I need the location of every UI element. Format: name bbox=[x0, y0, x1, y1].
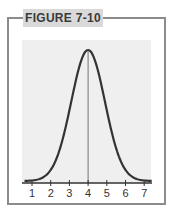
x-tick-label: 1 bbox=[29, 187, 35, 199]
plot-background bbox=[22, 40, 151, 183]
x-tick-label: 2 bbox=[48, 187, 54, 199]
x-tick-label: 3 bbox=[66, 187, 72, 199]
normal-curve-chart: 1234567 bbox=[0, 0, 173, 216]
x-tick-label: 4 bbox=[85, 187, 91, 199]
x-tick-label: 5 bbox=[104, 187, 110, 199]
x-axis: 1234567 bbox=[22, 180, 152, 199]
x-tick-label: 7 bbox=[141, 187, 147, 199]
x-tick-label: 6 bbox=[122, 187, 128, 199]
